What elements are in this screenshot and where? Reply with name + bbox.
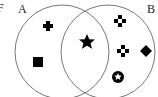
- star-icon: [79, 34, 95, 49]
- cross-dots-icon: [117, 45, 129, 57]
- circled-star-icon: [112, 71, 124, 83]
- fragment-label: F: [0, 1, 4, 15]
- square-icon: [33, 57, 43, 67]
- set-b-label: B: [147, 2, 155, 16]
- plus-icon: [43, 21, 53, 31]
- four-dot-diamond-icon: [114, 15, 126, 27]
- diamond-icon: [140, 45, 152, 57]
- set-a-circle: [15, 5, 109, 97]
- set-a-label: A: [18, 2, 27, 16]
- venn-diagram: F A B: [0, 0, 158, 97]
